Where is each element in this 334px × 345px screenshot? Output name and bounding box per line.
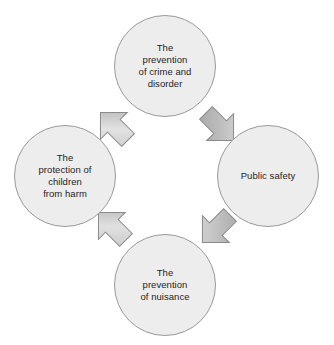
node-nuisance[interactable]: The prevention of nuisance xyxy=(114,234,216,336)
node-nuisance-label: The prevention of nuisance xyxy=(134,267,195,304)
node-crime-disorder[interactable]: The prevention of crime and disorder xyxy=(114,15,216,117)
node-crime-disorder-label: The prevention of crime and disorder xyxy=(133,42,198,91)
node-children-harm-label: The protection of children from harm xyxy=(33,152,98,201)
node-public-safety[interactable]: Public safety xyxy=(217,125,319,227)
node-public-safety-label: Public safety xyxy=(235,170,302,182)
node-children-harm[interactable]: The protection of children from harm xyxy=(14,125,116,227)
cycle-diagram: The prevention of crime and disorder Pub… xyxy=(0,0,334,345)
